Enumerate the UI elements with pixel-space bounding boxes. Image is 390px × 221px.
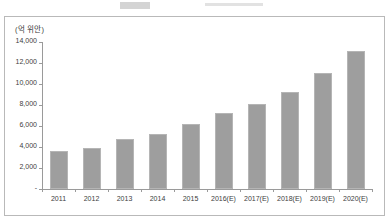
bar[interactable] — [149, 134, 167, 189]
y-axis-unit-label: (억 위안) — [15, 23, 44, 34]
y-axis-tick-label: 2,000 — [19, 163, 37, 170]
x-axis-tick-mark — [108, 189, 109, 192]
x-axis-tick-mark — [339, 189, 340, 192]
bar-slot — [273, 42, 306, 189]
chart-screenshot: (억 위안) 14,00012,00010,0008,0006,0004,000… — [0, 0, 390, 221]
bar-slot — [207, 42, 240, 189]
x-axis-tick-label: 2013 — [108, 195, 141, 202]
bar-slot — [240, 42, 273, 189]
x-axis-tick-mark — [240, 189, 241, 192]
y-axis-tick-label: 10,000 — [16, 79, 37, 86]
scan-artifact-mark-left — [120, 2, 150, 9]
bar-slot — [339, 42, 372, 189]
bar-slot — [75, 42, 108, 189]
bar[interactable] — [248, 104, 266, 189]
x-axis-tick-mark — [372, 189, 373, 192]
x-axis-tick-mark — [273, 189, 274, 192]
x-axis-tick-label: 2019(E) — [306, 195, 339, 202]
bar[interactable] — [314, 73, 332, 189]
x-axis-tick-label: 2018(E) — [273, 195, 306, 202]
bar[interactable] — [347, 51, 365, 189]
bar-slot — [108, 42, 141, 189]
bar[interactable] — [182, 124, 200, 189]
plot-area — [42, 42, 372, 189]
x-axis-tick-label: 2020(E) — [339, 195, 372, 202]
y-axis-tick-label: 8,000 — [19, 100, 37, 107]
x-axis-tick-label: 2011 — [42, 195, 75, 202]
bar[interactable] — [281, 92, 299, 189]
bar[interactable] — [50, 151, 68, 189]
y-axis-tick-label: - — [35, 184, 37, 191]
x-axis-tick-mark — [42, 189, 43, 192]
x-axis-tick-mark — [306, 189, 307, 192]
bar[interactable] — [215, 113, 233, 189]
x-axis-tick-label: 2016(E) — [207, 195, 240, 202]
x-axis-tick-mark — [141, 189, 142, 192]
bar[interactable] — [116, 139, 134, 189]
y-axis-tick-label: 4,000 — [19, 142, 37, 149]
bar-slot — [174, 42, 207, 189]
y-axis-tick-label: 6,000 — [19, 121, 37, 128]
x-axis-tick-mark — [207, 189, 208, 192]
y-axis-tick-label: 12,000 — [16, 58, 37, 65]
bar-slot — [306, 42, 339, 189]
x-axis-tick-label: 2017(E) — [240, 195, 273, 202]
x-axis-tick-label: 2015 — [174, 195, 207, 202]
bar-slot — [42, 42, 75, 189]
y-axis-tick-label: 14,000 — [16, 37, 37, 44]
chart-frame: (억 위안) 14,00012,00010,0008,0006,0004,000… — [4, 16, 385, 216]
x-axis-tick-mark — [75, 189, 76, 192]
x-axis-tick-mark — [174, 189, 175, 192]
scan-artifact-mark-right — [205, 3, 263, 6]
x-axis-tick-label: 2014 — [141, 195, 174, 202]
bar[interactable] — [83, 148, 101, 189]
bar-slot — [141, 42, 174, 189]
x-axis-tick-label: 2012 — [75, 195, 108, 202]
